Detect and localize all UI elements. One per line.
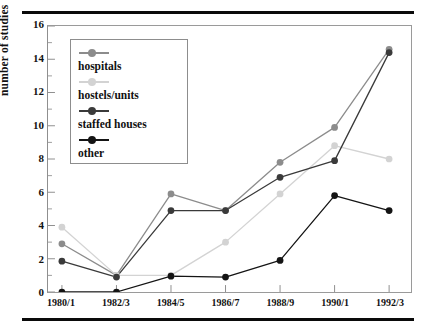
data-point	[222, 274, 229, 281]
data-point	[331, 142, 338, 149]
data-point	[277, 191, 284, 198]
x-tick-label: 1986/7	[212, 297, 240, 308]
x-tick-label: 1990/1	[321, 297, 349, 308]
chart-legend: hospitalshostels/unitsstaffed housesothe…	[70, 39, 188, 164]
data-point	[113, 274, 120, 281]
top-rule	[22, 11, 414, 14]
data-point	[168, 191, 175, 198]
data-point	[168, 273, 175, 280]
data-point	[168, 207, 175, 214]
data-point	[222, 207, 229, 214]
y-tick-label: 12	[18, 86, 44, 97]
data-point	[277, 257, 284, 264]
legend-label: staffed houses	[78, 117, 187, 131]
bottom-rule	[22, 318, 414, 321]
x-tick-label: 1982/3	[102, 297, 130, 308]
y-axis-label: number of studies	[0, 0, 10, 96]
data-point	[59, 240, 66, 247]
legend-marker-icon	[77, 76, 187, 87]
x-tick-label: 1980/1	[47, 297, 75, 308]
y-tick-label: 16	[18, 19, 44, 30]
x-axis-tick-labels: 1980/11982/31984/51986/71988/91990/11992…	[47, 297, 412, 317]
y-tick-label: 6	[18, 187, 44, 198]
legend-entry: hospitals	[77, 47, 187, 73]
data-point	[331, 157, 338, 164]
data-point	[386, 156, 393, 163]
legend-label: hostels/units	[78, 88, 187, 102]
data-point	[59, 224, 66, 231]
data-point	[331, 192, 338, 199]
legend-marker-icon	[77, 47, 187, 58]
data-point	[277, 174, 284, 181]
legend-label: other	[78, 146, 187, 160]
legend-dot-icon	[88, 107, 96, 115]
y-tick-label: 0	[18, 287, 44, 298]
legend-entry: other	[77, 134, 187, 160]
figure: number of studies 0246810121416 1980/119…	[0, 0, 432, 333]
y-tick-label: 8	[18, 153, 44, 164]
data-point	[59, 289, 66, 292]
x-tick-label: 1988/9	[266, 297, 294, 308]
x-tick-label: 1984/5	[157, 297, 185, 308]
data-point	[386, 49, 393, 56]
data-point	[386, 207, 393, 214]
legend-entry: hostels/units	[77, 76, 187, 102]
legend-label: hospitals	[78, 59, 187, 73]
x-tick-label: 1992/3	[376, 297, 404, 308]
legend-marker-icon	[77, 105, 187, 116]
data-point	[59, 258, 66, 265]
data-point	[113, 289, 120, 292]
y-tick-label: 4	[18, 220, 44, 231]
y-tick-label: 2	[18, 254, 44, 265]
legend-dot-icon	[88, 136, 96, 144]
legend-entry: staffed houses	[77, 105, 187, 131]
data-point	[277, 159, 284, 166]
data-point	[331, 124, 338, 131]
y-tick-label: 14	[18, 53, 44, 64]
data-point	[222, 239, 229, 246]
legend-dot-icon	[88, 49, 96, 57]
legend-marker-icon	[77, 134, 187, 145]
y-axis-tick-labels: 0246810121416	[14, 25, 44, 293]
legend-dot-icon	[88, 78, 96, 86]
y-tick-label: 10	[18, 120, 44, 131]
